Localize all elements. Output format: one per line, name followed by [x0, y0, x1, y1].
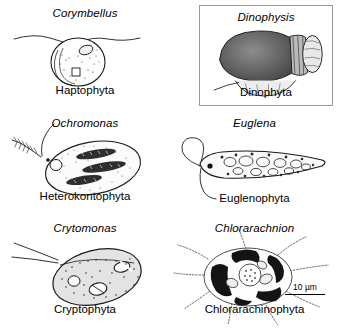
genus-label-corymbellus: Corymbellus: [52, 7, 117, 20]
genus-label-cryptomonas: Crytomonas: [54, 222, 117, 235]
panel-dinophyta: Dinophysis: [199, 5, 333, 106]
division-label-chlorarachinophyta: Chlorarachinophyta: [170, 303, 339, 316]
panel-haptophyta: Corymbellus: [0, 0, 170, 110]
panel-chlorarachinophyta: Chlorarachnion: [170, 215, 339, 331]
genus-label-dinophysis: Dinophysis: [237, 11, 294, 24]
division-label-euglenophyta: Euglenophyta: [170, 192, 339, 205]
panel-cryptophyta: Crytomonas: [0, 215, 170, 331]
division-label-cryptophyta: Cryptophyta: [0, 303, 170, 316]
panel-heterokontophyta: Ochromonas: [0, 110, 170, 215]
scale-bar-rule: [285, 294, 325, 296]
scale-bar-label: 10 µm: [285, 283, 325, 292]
division-label-haptophyta: Haptophyta: [0, 84, 170, 97]
division-label-dinophyta: Dinophyta: [200, 86, 332, 99]
panel-euglenophyta: Euglena: [170, 110, 339, 215]
algae-figure: Corymbellus: [0, 0, 339, 331]
genus-label-euglena: Euglena: [233, 117, 276, 130]
division-label-heterokontophyta: Heterokontophyta: [0, 190, 170, 203]
genus-label-ochromonas: Ochromonas: [52, 117, 119, 130]
scale-bar: 10 µm: [285, 283, 325, 295]
genus-label-chlorarachnion: Chlorarachnion: [215, 222, 294, 235]
